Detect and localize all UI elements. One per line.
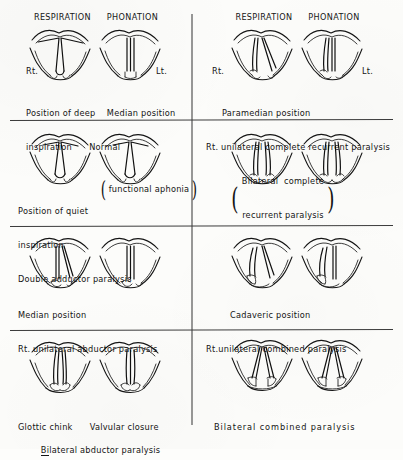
divider-horizontal-2 [10, 226, 393, 227]
divider-horizontal-1 [10, 120, 393, 121]
divider-horizontal-3 [10, 330, 393, 331]
